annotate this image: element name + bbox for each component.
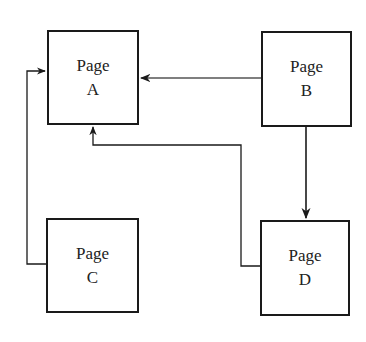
node-page-c-line2: C xyxy=(87,266,98,290)
edge-c-to-a xyxy=(27,71,46,264)
node-page-d: Page D xyxy=(260,220,350,316)
node-page-a-line1: Page xyxy=(76,54,109,78)
node-page-d-line1: Page xyxy=(288,244,321,268)
node-page-b-line1: Page xyxy=(290,55,323,79)
node-page-a: Page A xyxy=(47,30,139,125)
node-page-b-line2: B xyxy=(301,79,312,103)
node-page-d-line2: D xyxy=(299,268,311,292)
node-page-c-line1: Page xyxy=(76,242,109,266)
node-page-a-line2: A xyxy=(87,78,99,102)
node-page-b: Page B xyxy=(261,31,352,127)
node-page-c: Page C xyxy=(46,218,139,313)
